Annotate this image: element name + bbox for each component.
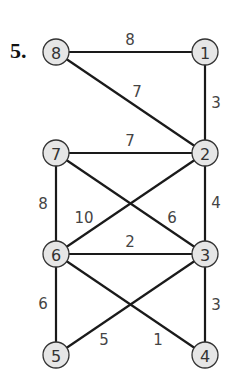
- weights-layer: 87378610426153: [38, 31, 221, 349]
- edge-weight-label: 1: [153, 331, 163, 349]
- edge-weight-label: 8: [38, 195, 48, 213]
- edge-weight-label: 4: [211, 194, 221, 212]
- node-label: 7: [51, 145, 61, 164]
- node-label: 8: [51, 44, 61, 63]
- edges-layer: [56, 52, 205, 355]
- edge-weight-label: 7: [125, 132, 135, 150]
- node-1: 1: [192, 39, 218, 65]
- node-label: 5: [51, 347, 61, 366]
- edge-weight-label: 8: [125, 31, 135, 49]
- weighted-graph: 87378610426153 81726354: [0, 0, 234, 391]
- node-label: 1: [200, 44, 210, 63]
- node-label: 2: [200, 145, 210, 164]
- node-label: 3: [200, 246, 210, 265]
- edge-weight-label: 7: [132, 83, 142, 101]
- edge-weight-label: 6: [38, 295, 48, 313]
- edge-weight-label: 2: [125, 233, 135, 251]
- node-6: 6: [43, 241, 69, 267]
- node-3: 3: [192, 241, 218, 267]
- node-2: 2: [192, 140, 218, 166]
- node-5: 5: [43, 342, 69, 368]
- edge-weight-label: 10: [74, 209, 93, 227]
- edge-weight-label: 6: [167, 209, 177, 227]
- node-7: 7: [43, 140, 69, 166]
- edge-weight-label: 3: [211, 296, 221, 314]
- edge-weight-label: 3: [211, 94, 221, 112]
- node-label: 4: [200, 347, 210, 366]
- node-label: 6: [51, 246, 61, 265]
- edge-weight-label: 5: [99, 331, 109, 349]
- node-4: 4: [192, 342, 218, 368]
- node-8: 8: [43, 39, 69, 65]
